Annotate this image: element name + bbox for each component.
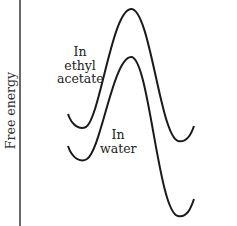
water-label: In water [100, 128, 136, 155]
ethyl-acetate-label-line-1: In [57, 45, 103, 59]
ethyl-acetate-label-line-2: ethyl [57, 59, 103, 73]
energy-curves [0, 0, 237, 226]
ethyl-acetate-label-line-3: acetate [57, 72, 103, 86]
ethyl-acetate-label: In ethyl acetate [57, 45, 103, 86]
water-label-line-1: In [100, 128, 136, 142]
water-label-line-2: water [100, 142, 136, 156]
